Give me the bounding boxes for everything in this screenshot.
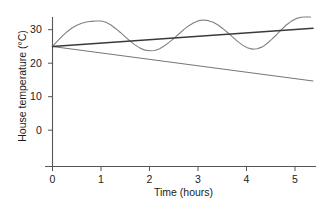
y-axis-title: House temperature (°C) <box>16 11 28 161</box>
x-axis-title: Time (hours) <box>52 186 315 198</box>
axis-lines <box>45 17 316 167</box>
x-tick-label-0: 0 <box>43 173 63 185</box>
x-tick-label-1: 1 <box>91 173 111 185</box>
data-series-group <box>53 17 314 81</box>
x-tick-label-5: 5 <box>285 173 305 185</box>
x-axis-ticks <box>53 167 296 172</box>
x-tick-label-2: 2 <box>140 173 160 185</box>
chart-figure: 30 20 10 0 0 1 2 3 4 5 House temperature… <box>0 0 331 210</box>
x-tick-label-4: 4 <box>237 173 257 185</box>
x-tick-label-3: 3 <box>188 173 208 185</box>
y-axis-ticks <box>48 30 53 131</box>
series-falling-trend-line <box>53 46 314 80</box>
series-oscillating-temperature <box>53 17 311 51</box>
